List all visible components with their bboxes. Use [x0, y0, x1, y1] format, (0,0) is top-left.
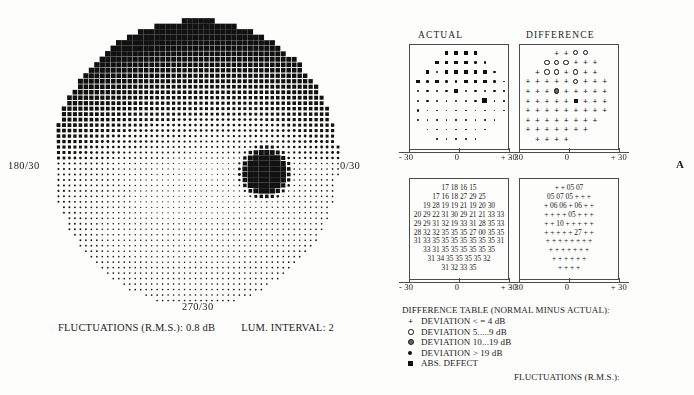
symbol-plus: + [533, 125, 543, 135]
symbol-plus: + [571, 58, 581, 68]
sensitivity-glyph [464, 80, 468, 84]
symbol-plus: + [533, 106, 543, 116]
sensitivity-glyph [465, 100, 468, 103]
legend-item-label: DEVIATION > 19 dB [421, 348, 503, 358]
sensitivity-glyph [483, 70, 487, 74]
sensitivity-glyph [416, 80, 420, 84]
symbol-sensitivity-s1 [442, 125, 452, 135]
symbol-plus: + [581, 115, 591, 125]
symbol-sensitivity-s2 [432, 67, 442, 77]
symbol-plus: + [590, 86, 600, 96]
symbol-sensitivity-s2 [471, 96, 481, 106]
sensitivity-glyph [426, 90, 429, 93]
symbol-sensitivity-s3 [442, 67, 452, 77]
axis-tick [519, 278, 520, 283]
fluctuations-value: FLUCTUATIONS (R.M.S.): 0.8 dB [58, 322, 215, 333]
sensitivity-glyph [503, 110, 505, 112]
symbol-sensitivity-s1 [432, 115, 442, 125]
symbol-sensitivity-s2 [461, 96, 471, 106]
symbol-plus: + [523, 115, 533, 125]
field-axis-label-left: 180/30 [8, 160, 40, 171]
symbol-sensitivity-s3 [442, 58, 452, 68]
symbol-sensitivity-s1 [499, 77, 509, 87]
axis-tick [619, 148, 620, 153]
sensitivity-glyph [494, 119, 496, 121]
sensitivity-glyph [446, 138, 448, 140]
legend-symbol-dotring [408, 339, 421, 345]
sensitivity-glyph [436, 129, 438, 131]
actual-number-scale: - 30 0 + 30 [399, 282, 517, 292]
actual-symbol-scale: - 30 0 + 30 [399, 152, 517, 162]
symbol-sensitivity-s1 [480, 106, 490, 116]
difference-number-box: + + 05 0705 07 05 + + ++ 06 06 + 06 + ++… [519, 178, 619, 280]
symbol-sensitivity-s1 [432, 106, 442, 116]
sensitivity-glyph [475, 129, 477, 131]
difference-symbol-scale: - 30 0 + 30 [509, 152, 627, 162]
field-axis-label-bottom: 270/30 [182, 301, 214, 312]
symbol-sensitivity-s2 [451, 77, 461, 87]
field-axis-label-right: 0/30 [340, 160, 360, 171]
symbol-sensitivity-s1 [451, 125, 461, 135]
difference-panel-title: DIFFERENCE [526, 30, 595, 40]
sensitivity-glyph [435, 80, 439, 84]
symbol-sensitivity-s1 [471, 115, 481, 125]
sensitivity-glyph [417, 119, 419, 121]
sensitivity-glyph [446, 100, 448, 102]
filled-square-glyph [574, 99, 579, 104]
symbol-plus: + [533, 134, 543, 144]
symbol-open-circle [542, 67, 552, 77]
actual-number-table: 17 18 16 1517 16 18 27 29 2519 28 19 19 … [410, 184, 508, 273]
sensitivity-glyph [484, 110, 486, 112]
symbol-plus: + [542, 86, 552, 96]
symbol-plus: + [523, 96, 533, 106]
symbol-plus: + [533, 86, 543, 96]
field-axis-label-top: 90/30 [185, 16, 211, 27]
symbol-sensitivity-s2 [442, 77, 452, 87]
legend-items: +DEVIATION < = 4 dBDEVIATION 5.....9 dBD… [402, 316, 694, 369]
symbol-plus: + [581, 58, 591, 68]
symbol-open-circle [552, 67, 562, 77]
legend-item-label: DEVIATION < = 4 dB [421, 316, 505, 326]
sensitivity-glyph [426, 100, 429, 103]
sensitivity-glyph [475, 138, 477, 140]
symbol-sensitivity-s1 [490, 96, 500, 106]
symbol-plus: + [542, 125, 552, 135]
symbol-sensitivity-s1 [471, 125, 481, 135]
symbol-sensitivity-s1 [442, 115, 452, 125]
sensitivity-glyph [455, 129, 457, 131]
symbol-sensitivity-s1 [499, 106, 509, 116]
symbol-sensitivity-s3 [461, 67, 471, 77]
symbol-plus: + [542, 134, 552, 144]
symbol-plus: + [542, 115, 552, 125]
symbol-sensitivity-s3 [432, 77, 442, 87]
symbol-sensitivity-s1 [461, 125, 471, 135]
symbol-sensitivity-s1 [499, 86, 509, 96]
symbol-sensitivity-s3 [413, 77, 423, 87]
sensitivity-glyph [474, 90, 477, 93]
scale-left-actual-num: - 30 [399, 282, 413, 292]
sensitivity-glyph [445, 90, 448, 93]
sensitivity-glyph [475, 119, 477, 121]
sensitivity-glyph [427, 119, 429, 121]
sensitivity-glyph [427, 129, 429, 131]
sensitivity-glyph [446, 129, 448, 131]
sensitivity-glyph [503, 100, 505, 102]
legend-fluctuations-label: FLUCTUATIONS (R.M.S.): [514, 372, 620, 382]
symbol-plus: + [581, 125, 591, 135]
sensitivity-glyph [445, 61, 449, 65]
symbol-plus: + [571, 106, 581, 116]
symbol-sensitivity-s1 [442, 106, 452, 116]
symbol-sensitivity-s2 [423, 86, 433, 96]
symbol-sensitivity-s3 [471, 67, 481, 77]
symbol-sensitivity-s1 [413, 115, 423, 125]
open-circle-glyph [583, 50, 588, 55]
symbol-sensitivity-s3 [451, 86, 461, 96]
sensitivity-glyph [445, 80, 448, 83]
sensitivity-glyph [427, 110, 429, 112]
sensitivity-glyph [474, 61, 477, 64]
symbol-abs-defect [571, 96, 581, 106]
visual-field-dot-map [30, 18, 362, 308]
symbol-plus: + [542, 77, 552, 87]
sensitivity-glyph [417, 90, 420, 93]
symbol-sensitivity-s2 [461, 86, 471, 96]
